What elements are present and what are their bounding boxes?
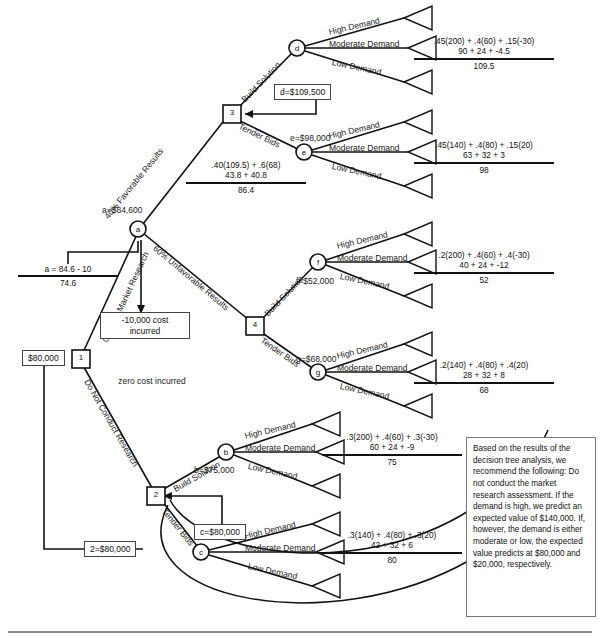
node-label-1: 1: [72, 353, 90, 362]
node-label-b: b: [218, 448, 234, 457]
calc-d-line2: 90 + 24 + -4.5: [414, 46, 554, 56]
value-box-c: c=$80,000: [194, 524, 246, 540]
calc-g-bar: [414, 382, 554, 384]
calc-node-a-result: 74.6: [18, 278, 118, 288]
demand-label-c-moderate: Moderate Demand: [245, 544, 315, 554]
calc-c-bar: [322, 552, 462, 554]
calc-b-result: 75: [322, 457, 462, 467]
calc-d-bar: [414, 58, 554, 60]
calc-c-line2: 42 + 32 + 6: [322, 540, 462, 550]
calc-c-line1: .3(140) + .4(80) + .3(20): [322, 530, 462, 540]
recommendation-text: Based on the results of the decision tre…: [473, 444, 585, 569]
demand-label-g-moderate: Moderate Demand: [337, 364, 407, 374]
calc-e-result: 98: [414, 165, 554, 175]
calc-node3-result: 86.4: [186, 185, 306, 195]
node-label-3: 3: [223, 108, 241, 117]
calc-e-line1: .45(140) + .4(80) + .15(20): [414, 140, 554, 150]
value-label-b: b=$75,000: [194, 466, 234, 476]
cost-incurred-text: -10,000 cost incurred: [122, 315, 169, 336]
calc-node-a: a = 84.6 - 10 74.6: [18, 264, 118, 289]
calc-node3-bar: [186, 182, 306, 184]
demand-label-e-moderate: Moderate Demand: [329, 144, 399, 154]
calc-f-line1: .2(200) + .4(60) + .4(-30): [414, 250, 554, 260]
node-label-e: e: [296, 148, 312, 157]
calc-e-bar: [414, 162, 554, 164]
calc-c: .3(140) + .4(80) + .3(20) 42 + 32 + 6 80: [322, 530, 462, 565]
arrowhead-d-to-3: [245, 110, 253, 118]
value-box-cost-incurred: -10,000 cost incurred: [100, 312, 190, 339]
calc-f-line2: 40 + 24 + -12: [414, 260, 554, 270]
rollback-bracket-a: [68, 241, 138, 264]
calc-f-bar: [414, 272, 554, 274]
calc-node3-line1: .40(109.5) + .6(68): [186, 160, 306, 170]
value-label-f: f=$52,000: [296, 277, 334, 287]
zero-cost-text: zero cost incurred: [118, 376, 186, 386]
decision-tree-diagram: 1 2 3 4 a b c d e f g Conduct Market Res…: [0, 0, 600, 639]
calc-g-result: 68: [414, 385, 554, 395]
node-label-2: 2: [147, 490, 165, 499]
calc-b-line1: .3(200) + .4(60) + .3(-30): [322, 432, 462, 442]
calc-g: .2(140) + .4(80) + .4(20) 28 + 32 + 8 68: [414, 360, 554, 395]
calc-node3-line2: 43.8 + 40.8: [186, 170, 306, 180]
calc-b: .3(200) + .4(60) + .3(-30) 60 + 24 + -9 …: [322, 432, 462, 467]
label-zero-cost: zero cost incurred: [115, 376, 189, 387]
calc-d-result: 109.5: [414, 61, 554, 71]
calc-f-result: 52: [414, 275, 554, 285]
demand-label-d-moderate: Moderate Demand: [329, 40, 399, 50]
calc-node-a-bar: [18, 275, 118, 277]
calc-node3: .40(109.5) + .6(68) 43.8 + 40.8 86.4: [186, 160, 306, 195]
node-label-g: g: [310, 368, 326, 377]
calc-c-result: 80: [322, 555, 462, 565]
value-label-g: g=$68,000: [296, 355, 336, 365]
node-label-4: 4: [246, 320, 264, 329]
value-label-a: a=$84,600: [102, 206, 142, 216]
recommendation-note: Based on the results of the decision tre…: [466, 437, 596, 617]
calc-d-line1: .45(200) + .4(60) + .15(-30): [414, 36, 554, 46]
node-label-f: f: [310, 258, 326, 267]
demand-label-f-moderate: Moderate Demand: [337, 254, 407, 264]
calc-node-a-line1: a = 84.6 - 10: [18, 264, 118, 274]
calc-d: .45(200) + .4(60) + .15(-30) 90 + 24 + -…: [414, 36, 554, 71]
value-box-d: d=$109,500: [274, 84, 331, 100]
node-label-c: c: [193, 548, 209, 557]
demand-label-b-moderate: Moderate Demand: [245, 444, 315, 454]
calc-e-line2: 63 + 32 + 3: [414, 150, 554, 160]
calc-e: .45(140) + .4(80) + .15(20) 63 + 32 + 3 …: [414, 140, 554, 175]
calc-f: .2(200) + .4(60) + .4(-30) 40 + 24 + -12…: [414, 250, 554, 285]
node-label-d: d: [289, 44, 305, 53]
value-box-node2: 2=$80,000: [84, 541, 136, 557]
calc-b-bar: [322, 454, 462, 456]
value-label-e: e=$98,000: [290, 134, 330, 144]
calc-b-line2: 60 + 24 + -9: [322, 442, 462, 452]
node-label-a: a: [130, 225, 146, 234]
value-box-start: $80,000: [22, 350, 65, 366]
calc-g-line1: .2(140) + .4(80) + .4(20): [414, 360, 554, 370]
calc-g-line2: 28 + 32 + 8: [414, 370, 554, 380]
